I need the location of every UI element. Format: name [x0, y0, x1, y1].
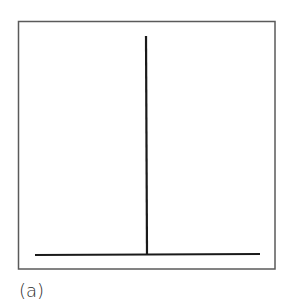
figure-caption: (a) [19, 281, 44, 301]
diagram-figure [0, 0, 284, 303]
vertical-stem-line [146, 36, 147, 255]
